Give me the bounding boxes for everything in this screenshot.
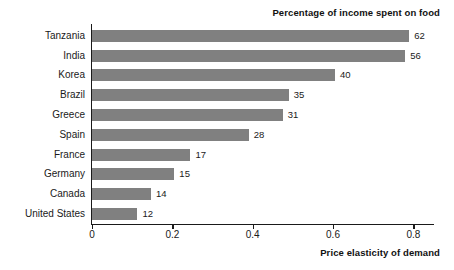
x-tick-label: 0.8 bbox=[406, 230, 420, 240]
bar-row: Germany15 bbox=[92, 165, 434, 185]
bar-row: Greece31 bbox=[92, 105, 434, 125]
category-label: Canada bbox=[50, 189, 85, 199]
bar bbox=[92, 129, 249, 141]
bar bbox=[92, 69, 335, 81]
bar-value-label: 14 bbox=[156, 190, 167, 200]
category-label: France bbox=[54, 150, 85, 160]
bar-row: Tanzania62 bbox=[92, 26, 434, 46]
bar-value-label: 62 bbox=[414, 31, 425, 41]
category-label: Spain bbox=[59, 130, 85, 140]
bar bbox=[92, 149, 190, 161]
category-label: Tanzania bbox=[45, 31, 85, 41]
bar-row: Canada14 bbox=[92, 184, 434, 204]
bar-row: United States12 bbox=[92, 204, 434, 224]
bar-row: Spain28 bbox=[92, 125, 434, 145]
bar bbox=[92, 168, 174, 180]
bar bbox=[92, 188, 151, 200]
x-tick-label: 0.4 bbox=[246, 230, 260, 240]
bar bbox=[92, 89, 289, 101]
plot-area: Tanzania62India56Korea40Brazil35Greece31… bbox=[92, 26, 434, 224]
bar-row: Korea40 bbox=[92, 66, 434, 86]
bar-row: Brazil35 bbox=[92, 85, 434, 105]
chart-container: Percentage of income spent on food Tanza… bbox=[0, 0, 454, 270]
x-axis-title: Price elasticity of demand bbox=[320, 247, 440, 258]
category-label: India bbox=[63, 51, 85, 61]
category-label: Brazil bbox=[60, 90, 85, 100]
bar bbox=[92, 30, 409, 42]
category-label: Korea bbox=[58, 70, 85, 80]
x-tick-label: 0.2 bbox=[165, 230, 179, 240]
bar-value-label: 12 bbox=[142, 209, 153, 219]
x-axis-line bbox=[91, 224, 434, 225]
bar-value-label: 56 bbox=[410, 51, 421, 61]
bar-value-label: 17 bbox=[195, 150, 206, 160]
x-tick-label: 0.6 bbox=[326, 230, 340, 240]
bar bbox=[92, 208, 137, 220]
bar-value-label: 31 bbox=[288, 110, 299, 120]
bar-value-label: 40 bbox=[340, 71, 351, 81]
bar-value-label: 15 bbox=[179, 170, 190, 180]
bar bbox=[92, 109, 283, 121]
x-tick-label: 0 bbox=[89, 230, 95, 240]
category-label: United States bbox=[25, 209, 85, 219]
bar-row: India56 bbox=[92, 46, 434, 66]
category-label: Greece bbox=[52, 110, 85, 120]
bar-row: France17 bbox=[92, 145, 434, 165]
category-label: Germany bbox=[44, 169, 85, 179]
chart-top-label: Percentage of income spent on food bbox=[272, 7, 440, 18]
bar-value-label: 28 bbox=[254, 130, 265, 140]
bar-value-label: 35 bbox=[294, 91, 305, 101]
bar bbox=[92, 50, 405, 62]
